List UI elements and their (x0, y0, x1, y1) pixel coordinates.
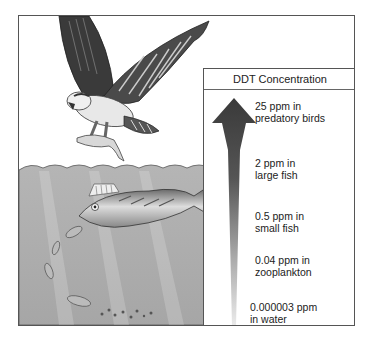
level-organism: small fish (255, 222, 304, 234)
concentration-arrow-icon (204, 90, 264, 326)
level-organism: large fish (255, 169, 298, 181)
level-organism: in water (250, 313, 317, 325)
level-value: 0.5 ppm in (255, 210, 304, 222)
level-value: 0.04 ppm in (255, 254, 312, 266)
level-value: 25 ppm in (255, 100, 325, 112)
osprey-illustration (59, 16, 209, 161)
ddt-concentration-panel: DDT Concentration 25 ppm in predatory bi… (203, 68, 355, 326)
level-water: 0.000003 ppm in water (250, 301, 317, 325)
level-predatory-birds: 25 ppm in predatory birds (255, 100, 325, 124)
diagram-frame: DDT Concentration 25 ppm in predatory bi… (18, 15, 355, 326)
level-large-fish: 2 ppm in large fish (255, 157, 298, 181)
level-zooplankton: 0.04 ppm in zooplankton (255, 254, 312, 278)
level-organism: zooplankton (255, 266, 312, 278)
level-organism: predatory birds (255, 112, 325, 124)
level-value: 2 ppm in (255, 157, 298, 169)
level-small-fish: 0.5 ppm in small fish (255, 210, 304, 234)
panel-title: DDT Concentration (204, 69, 355, 90)
level-value: 0.000003 ppm (250, 301, 317, 313)
